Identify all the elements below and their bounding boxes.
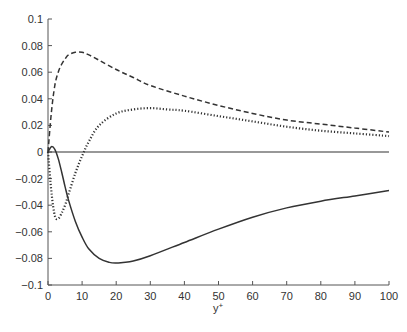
y-tick-label: 0 — [37, 146, 43, 158]
x-tick-label: 60 — [246, 290, 258, 302]
y-tick-label: 0.1 — [28, 13, 43, 25]
y-tick-label: −0.02 — [15, 173, 43, 185]
y-tick-label: 0.04 — [22, 93, 43, 105]
series-solid — [48, 147, 389, 263]
y-tick-label: 0.08 — [22, 40, 43, 52]
y-tick-label: −0.04 — [15, 199, 43, 211]
y-tick-label: 0.06 — [22, 66, 43, 78]
x-tick-label: 10 — [76, 290, 88, 302]
x-tick-label: 100 — [380, 290, 398, 302]
series-dotted — [48, 108, 389, 219]
y-tick-label: −0.1 — [21, 279, 43, 291]
y-tick-label: 0.02 — [22, 119, 43, 131]
line-chart: 0.10.080.060.040.020−0.02−0.04−0.06−0.08… — [0, 0, 407, 332]
x-tick-label: 90 — [349, 290, 361, 302]
plot-series — [48, 52, 389, 263]
x-tick-label: 70 — [281, 290, 293, 302]
x-tick-label: 80 — [315, 290, 327, 302]
y-tick-label: −0.08 — [15, 252, 43, 264]
x-tick-label: 30 — [144, 290, 156, 302]
series-dashed — [48, 52, 389, 152]
x-tick-label: 0 — [45, 290, 51, 302]
x-tick-label: 20 — [110, 290, 122, 302]
x-axis-label: y+ — [213, 301, 224, 314]
x-tick-label: 40 — [178, 290, 190, 302]
axes: 0.10.080.060.040.020−0.02−0.04−0.06−0.08… — [15, 13, 398, 302]
y-tick-label: −0.06 — [15, 226, 43, 238]
